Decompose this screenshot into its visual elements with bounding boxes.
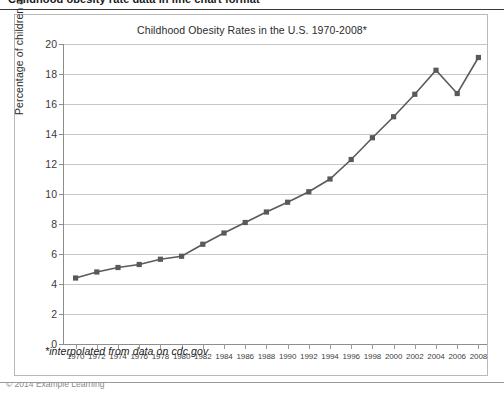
data-point-1974 (115, 265, 120, 270)
x-tick-label-2000: 2000 (385, 352, 402, 361)
x-tick-label-1984: 1984 (215, 352, 232, 361)
x-tick-label-1992: 1992 (300, 352, 317, 361)
x-tick-label-1990: 1990 (279, 352, 296, 361)
data-point-2006 (455, 91, 460, 96)
data-point-2004 (433, 68, 438, 73)
page-caption: © 2014 Example Learning (6, 383, 104, 389)
y-tick-label-6: 6 (17, 248, 57, 260)
data-point-1992 (306, 189, 311, 194)
x-tick-label-1988: 1988 (258, 352, 275, 361)
x-tick-mark-1996 (351, 344, 352, 349)
x-tick-mark-2006 (457, 344, 458, 349)
page-heading-strip: Childhood obesity rate data in line char… (0, 0, 504, 9)
header-divider (0, 9, 504, 10)
data-point-1994 (327, 176, 332, 181)
x-tick-mark-2000 (394, 344, 395, 349)
y-tick-label-12: 12 (17, 158, 57, 170)
x-tick-mark-1984 (224, 344, 225, 349)
y-tick-label-10: 10 (17, 188, 57, 200)
x-tick-label-1998: 1998 (364, 352, 381, 361)
data-point-2002 (412, 92, 417, 97)
data-point-2008 (476, 55, 481, 60)
data-point-1984 (221, 230, 226, 235)
series-line (76, 58, 479, 279)
x-tick-mark-1994 (330, 344, 331, 349)
x-tick-mark-2008 (478, 344, 479, 349)
x-tick-mark-1992 (309, 344, 310, 349)
y-tick-label-14: 14 (17, 128, 57, 140)
y-tick-label-2: 2 (17, 308, 57, 320)
data-point-1980 (179, 254, 184, 259)
x-tick-mark-1986 (245, 344, 246, 349)
x-tick-mark-2002 (415, 344, 416, 349)
x-tick-label-2008: 2008 (470, 352, 487, 361)
data-series-obesity-rate (63, 44, 487, 344)
chart-footnote: *interpolated from data on cdc.gov (45, 345, 208, 357)
page-caption-strip: © 2014 Example Learning (0, 383, 504, 394)
x-tick-mark-1990 (288, 344, 289, 349)
y-tick-label-4: 4 (17, 278, 57, 290)
page-heading: Childhood obesity rate data in line char… (8, 0, 260, 5)
x-tick-mark-1988 (266, 344, 267, 349)
x-tick-label-1994: 1994 (321, 352, 338, 361)
data-point-1988 (264, 209, 269, 214)
y-tick-label-20: 20 (17, 38, 57, 50)
data-point-1986 (243, 220, 248, 225)
data-point-1972 (94, 269, 99, 274)
page-heading-bold: Childhood obesity rate data in line char… (8, 0, 260, 5)
y-tick-label-8: 8 (17, 218, 57, 230)
plot-area: 02468101214161820 1970197219741976197819… (63, 44, 487, 344)
x-tick-label-1986: 1986 (236, 352, 253, 361)
data-point-1982 (200, 242, 205, 247)
data-point-1990 (285, 200, 290, 205)
data-point-1970 (73, 275, 78, 280)
y-tick-label-16: 16 (17, 98, 57, 110)
data-point-1978 (158, 257, 163, 262)
data-point-1996 (349, 157, 354, 162)
x-tick-label-2006: 2006 (448, 352, 465, 361)
chart-title: Childhood Obesity Rates in the U.S. 1970… (15, 24, 489, 36)
data-point-1976 (137, 262, 142, 267)
x-tick-label-1996: 1996 (342, 352, 359, 361)
y-tick-label-18: 18 (17, 68, 57, 80)
data-point-1998 (370, 135, 375, 140)
chart-figure: Childhood Obesity Rates in the U.S. 1970… (14, 14, 488, 376)
x-tick-mark-2004 (436, 344, 437, 349)
x-tick-label-2004: 2004 (427, 352, 444, 361)
data-point-2000 (391, 114, 396, 119)
x-tick-mark-1998 (372, 344, 373, 349)
x-tick-label-2002: 2002 (406, 352, 423, 361)
